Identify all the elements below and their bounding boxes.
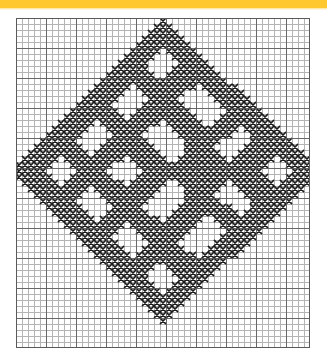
top-accent-banner [0,0,327,8]
banner-shadow [0,8,327,10]
cross-stitch-chart [16,18,310,348]
chart-page [0,0,327,364]
stitch-grid-canvas [16,18,310,348]
